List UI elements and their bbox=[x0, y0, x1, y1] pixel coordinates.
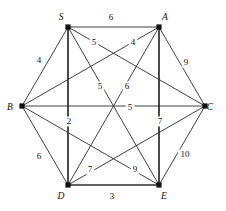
graph-edge-c-e bbox=[159, 106, 205, 185]
vertex-label-a: A bbox=[161, 12, 168, 22]
edge-weight-b-e: 9 bbox=[133, 164, 138, 174]
weighted-graph-figure: 6452549675697103 SABCDE bbox=[0, 0, 226, 211]
vertex-label-c: C bbox=[207, 102, 214, 112]
vertex-label-layer: SABCDE bbox=[7, 12, 214, 201]
edge-weight-a-e: 7 bbox=[158, 116, 163, 126]
graph-edge-s-b bbox=[22, 27, 68, 106]
graph-vertex-a bbox=[156, 24, 161, 29]
edge-weight-c-e: 10 bbox=[181, 149, 191, 159]
edge-layer bbox=[22, 27, 205, 185]
edge-weight-s-a: 6 bbox=[109, 12, 114, 22]
graph-vertex-e bbox=[156, 182, 161, 187]
graph-edge-b-d bbox=[22, 106, 68, 185]
edge-weight-s-b: 4 bbox=[37, 55, 42, 65]
graph-vertex-b bbox=[19, 103, 24, 108]
edge-weight-b-c: 5 bbox=[128, 102, 133, 112]
graph-canvas: 6452549675697103 SABCDE bbox=[0, 0, 226, 211]
edge-weight-d-e: 3 bbox=[110, 191, 115, 201]
edge-weight-c-d: 7 bbox=[88, 164, 93, 174]
graph-vertex-s bbox=[65, 24, 70, 29]
edge-weight-s-e: 5 bbox=[98, 81, 103, 91]
vertex-label-d: D bbox=[57, 191, 65, 201]
vertex-label-s: S bbox=[59, 12, 64, 22]
edge-weight-a-c: 9 bbox=[184, 57, 189, 67]
vertex-label-e: E bbox=[160, 191, 167, 201]
edge-weight-a-d: 6 bbox=[125, 81, 130, 91]
graph-vertex-d bbox=[65, 182, 70, 187]
edge-weight-b-d: 6 bbox=[37, 151, 42, 161]
edge-weight-s-d: 2 bbox=[67, 116, 72, 126]
edge-weight-a-b: 4 bbox=[131, 37, 136, 47]
edge-weight-s-c: 5 bbox=[92, 37, 97, 47]
vertex-label-b: B bbox=[7, 102, 13, 112]
